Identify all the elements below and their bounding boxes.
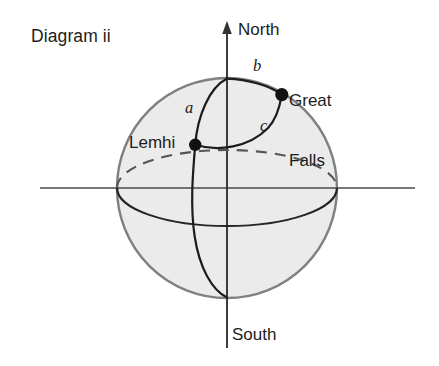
great-falls-label: Great Falls [289,52,332,210]
north-label: North [238,21,280,39]
sphere-diagram-svg [0,0,439,366]
curve-label-b: b [253,57,261,75]
lemhi-label: Lemhi [129,134,175,152]
diagram-title: Diagram ii [31,27,111,46]
curve-label-a: a [185,99,193,117]
diagram-figure: Diagram ii North South Lemhi Great Falls… [0,0,439,366]
south-label: South [232,326,276,344]
curve-label-c: c [260,117,267,135]
north-arrowhead-icon [222,21,232,34]
great-falls-label-line2: Falls [289,151,332,171]
great-falls-label-line1: Great [289,91,332,111]
point-lemhi [189,139,201,151]
point-great-falls [275,88,288,101]
